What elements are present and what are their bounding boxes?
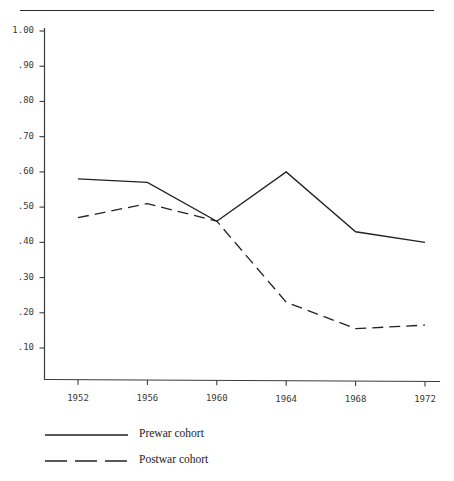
chart-figure: 1.00.90.80.70.60.50.40.30.20.10 19521956… (0, 0, 454, 481)
x-axis-line (45, 380, 441, 382)
y-tick-label: .80 (0, 95, 34, 105)
legend-item-label: Postwar cohort (139, 453, 208, 465)
x-tick-label: 1960 (192, 393, 242, 403)
y-axis-ticks (40, 31, 45, 348)
y-tick-label: .20 (0, 307, 34, 317)
y-tick-label: .60 (0, 166, 34, 176)
legend-swatches (45, 435, 128, 461)
x-tick-label: 1952 (53, 393, 103, 403)
x-tick-label: 1964 (261, 394, 311, 404)
y-tick-label: 1.00 (0, 25, 34, 35)
y-tick-label: .90 (0, 60, 34, 70)
x-tick-label: 1972 (400, 394, 450, 404)
series-line-2 (78, 204, 425, 329)
y-tick-label: .40 (0, 236, 34, 246)
legend-item-label: Prewar cohort (139, 427, 204, 439)
y-tick-label: .50 (0, 201, 34, 211)
x-tick-label: 1968 (331, 394, 381, 404)
x-tick-label: 1956 (122, 393, 172, 403)
y-tick-label: .30 (0, 272, 34, 282)
y-tick-label: .10 (0, 342, 34, 352)
y-tick-label: .70 (0, 131, 34, 141)
data-series-group (78, 172, 425, 329)
line-chart-plot (0, 0, 454, 481)
